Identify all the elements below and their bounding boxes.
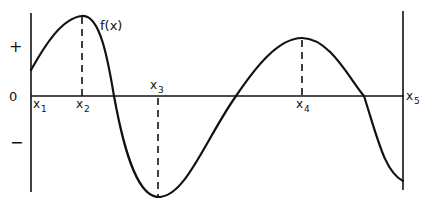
- x5-subscript: 5: [414, 96, 420, 106]
- x1-label: x 1: [33, 97, 47, 114]
- zero-label: 0: [9, 89, 17, 104]
- function-extrema-diagram: f(x) + 0 − x 1 x 2 x 3 x 4 x 5: [0, 0, 428, 198]
- x2-label: x 2: [76, 97, 90, 114]
- x3-subscript: 3: [158, 85, 164, 95]
- x4-base: x: [296, 97, 303, 111]
- x1-subscript: 1: [41, 104, 47, 114]
- x1-base: x: [33, 97, 40, 111]
- negative-sign-label: −: [10, 133, 23, 152]
- x4-label: x 4: [296, 97, 310, 114]
- positive-sign-label: +: [9, 37, 22, 56]
- x3-label: x 3: [150, 78, 164, 95]
- x3-base: x: [150, 78, 157, 92]
- x2-base: x: [76, 97, 83, 111]
- x2-subscript: 2: [84, 104, 90, 114]
- x5-base: x: [406, 89, 413, 103]
- x5-label: x 5: [406, 89, 420, 106]
- function-label: f(x): [100, 18, 122, 33]
- x4-subscript: 4: [304, 104, 310, 114]
